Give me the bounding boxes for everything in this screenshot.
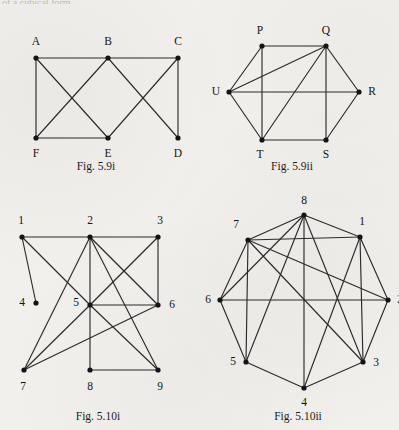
vertex-label-8: 8 (87, 380, 93, 392)
vertex-label-5: 5 (230, 355, 236, 367)
vertex-label-E: E (104, 147, 111, 159)
graph-edge-5-6 (220, 300, 246, 362)
vertex-label-Q: Q (322, 24, 331, 36)
vertex-label-6: 6 (205, 293, 211, 305)
graph-vertex-F (33, 135, 38, 140)
fig-5-10i-caption: Fig. 5.10i (58, 410, 138, 422)
vertex-label-4: 4 (19, 296, 25, 308)
vertex-label-9: 9 (157, 380, 163, 392)
graph-vertex-D (175, 135, 180, 140)
vertex-label-4: 4 (301, 396, 307, 408)
edge-layer (229, 46, 359, 140)
graph-vertex-A (33, 55, 38, 60)
figure-page: of a cubical form. ABCFEDFig. 5.9iPQRSTU… (0, 0, 399, 430)
vertex-label-U: U (212, 85, 221, 97)
vertex-label-3: 3 (373, 356, 379, 368)
graph-edge-6-7 (24, 305, 158, 370)
graph-vertex-T (259, 137, 264, 142)
vertex-label-3: 3 (157, 214, 163, 226)
graph-vertex-S (323, 137, 328, 142)
graph-edge-T-U (229, 92, 262, 140)
graph-edge-1-5 (22, 237, 90, 305)
graph-vertex-2 (87, 234, 92, 239)
vertex-label-C: C (174, 35, 182, 47)
graph-edge-Q-T (262, 46, 326, 140)
graph-vertex-Q (323, 43, 328, 48)
graph-edge-2-3 (363, 300, 388, 362)
fig-5-10i: 123456789 (18, 215, 198, 400)
graph-edge-5-9 (90, 305, 158, 370)
graph-vertex-4 (301, 385, 306, 390)
graph-vertex-4 (33, 300, 38, 305)
vertex-label-F: F (33, 147, 39, 159)
graph-vertex-3 (155, 234, 160, 239)
graph-edge-6-7 (220, 240, 248, 300)
graph-edge-5-7 (246, 240, 248, 362)
graph-edge-3-7 (248, 240, 363, 362)
graph-vertex-P (259, 43, 264, 48)
graph-vertex-E (105, 135, 110, 140)
vertex-label-5: 5 (73, 296, 79, 308)
node-layer: 123456789 (18, 214, 175, 392)
edge-layer (36, 58, 178, 138)
graph-edge-8-1 (304, 215, 360, 237)
graph-edge-U-P (229, 46, 262, 92)
graph-edge-U-Q (229, 46, 326, 92)
graph-edge-5-7 (24, 305, 90, 370)
vertex-label-P: P (257, 24, 263, 36)
fig-5-9ii-caption: Fig. 5.9ii (252, 160, 332, 172)
graph-edge-1-4 (22, 237, 36, 303)
node-layer: ABCFED (32, 35, 182, 159)
graph-vertex-1 (19, 234, 24, 239)
vertex-label-R: R (368, 85, 376, 97)
graph-vertex-6 (217, 297, 222, 302)
graph-vertex-3 (360, 359, 365, 364)
graph-vertex-U (226, 89, 231, 94)
fig-5-9ii: PQRSTU (222, 20, 382, 155)
graph-vertex-B (105, 55, 110, 60)
graph-vertex-R (356, 89, 361, 94)
vertex-label-6: 6 (169, 298, 175, 310)
graph-vertex-2 (385, 297, 390, 302)
graph-vertex-1 (357, 234, 362, 239)
graph-vertex-7 (245, 237, 250, 242)
graph-edge-3-4 (304, 362, 363, 388)
node-layer: 81234567 (205, 194, 399, 408)
page-top-partial-text: of a cubical form. (2, 0, 73, 4)
graph-vertex-5 (243, 359, 248, 364)
graph-vertex-8 (87, 367, 92, 372)
graph-edge-Q-R (326, 46, 359, 92)
vertex-label-1: 1 (18, 214, 24, 226)
fig-5-9i-caption: Fig. 5.9i (56, 160, 136, 172)
graph-edge-2-9 (90, 237, 158, 370)
fig-5-10ii-caption: Fig. 5.10ii (258, 410, 338, 422)
graph-vertex-6 (155, 302, 160, 307)
vertex-label-7: 7 (20, 380, 26, 392)
graph-edge-1-2 (360, 237, 388, 300)
vertex-label-B: B (104, 35, 112, 47)
graph-edge-4-5 (246, 362, 304, 388)
vertex-label-D: D (174, 147, 182, 159)
vertex-label-S: S (323, 148, 329, 160)
graph-vertex-8 (301, 212, 306, 217)
graph-vertex-7 (21, 367, 26, 372)
fig-5-10ii: 81234567 (208, 200, 388, 400)
vertex-label-7: 7 (233, 218, 239, 230)
vertex-label-8: 8 (301, 194, 307, 206)
graph-edge-R-S (326, 92, 359, 140)
vertex-label-T: T (256, 148, 263, 160)
graph-edge-1-4 (304, 237, 360, 388)
graph-vertex-5 (87, 302, 92, 307)
vertex-label-1: 1 (359, 215, 365, 227)
graph-vertex-C (175, 55, 180, 60)
vertex-label-2: 2 (87, 214, 93, 226)
graph-vertex-9 (155, 367, 160, 372)
vertex-label-A: A (32, 35, 41, 47)
fig-5-9i: ABCFED (18, 20, 198, 155)
